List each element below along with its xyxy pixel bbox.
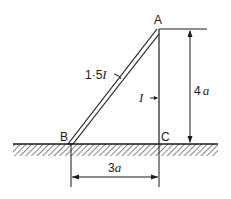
- dimension-horizontal-label: 3a: [108, 160, 122, 175]
- ground-hatching: [13, 144, 218, 156]
- frame-diagram: A B C 1·5I I 4a 3a: [0, 0, 231, 199]
- member-ac-label: I: [138, 90, 144, 105]
- point-label-b: B: [60, 130, 68, 144]
- point-label-c: C: [161, 130, 170, 144]
- leader-ac: [150, 96, 158, 100]
- dimension-vertical: [188, 30, 193, 143]
- member-ab-label: 1·5I: [85, 67, 107, 82]
- dimension-vertical-label: 4a: [194, 83, 210, 98]
- member-ab: [68, 29, 159, 144]
- point-label-a: A: [154, 13, 162, 27]
- ground: [13, 144, 218, 156]
